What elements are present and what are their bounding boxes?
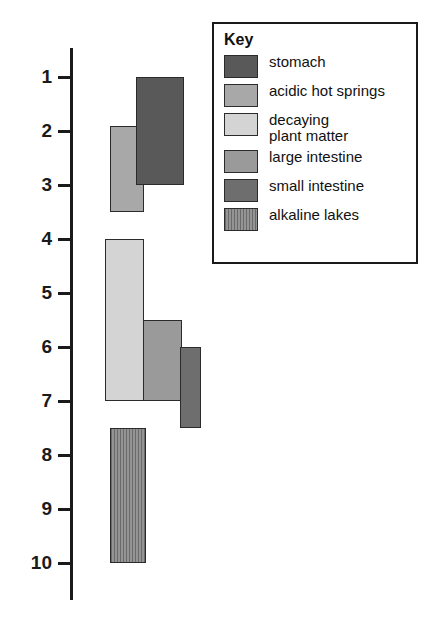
legend-swatch-icon [224,208,258,231]
legend-item: decaying plant matter [224,112,408,144]
y-axis-tick-label-text: 1 [8,67,52,86]
y-axis-tick-label: 6 [0,337,52,357]
y-axis-tick [58,400,72,403]
y-axis-tick [58,292,72,295]
legend-item: alkaline lakes [224,207,408,231]
legend-swatch-icon [224,150,258,173]
y-axis-tick-label-text: 7 [8,391,52,410]
y-axis-tick [58,508,72,511]
legend-items: stomachacidic hot springsdecaying plant … [224,54,408,231]
legend-item-label: large intestine [269,149,362,165]
y-axis-tick [58,454,72,457]
legend-item-label: alkaline lakes [269,207,359,223]
y-axis-tick-label-text: 3 [8,175,52,194]
y-axis-tick [58,238,72,241]
legend-swatch-icon [224,55,258,78]
legend-item-label: small intestine [269,178,364,194]
legend-item: stomach [224,54,408,78]
y-axis-tick-label: 9 [0,499,52,519]
legend-item-label: decaying plant matter [269,112,348,144]
y-axis-tick [58,346,72,349]
legend-item-label: acidic hot springs [269,83,385,99]
y-axis-tick-label-text: 5 [8,283,52,302]
legend-swatch-icon [224,179,258,202]
y-axis-tick [58,562,72,565]
legend-item: acidic hot springs [224,83,408,107]
y-axis-tick [58,130,72,133]
y-axis-tick-label: 7 [0,391,52,411]
legend-item-label: stomach [269,54,326,70]
legend-item: large intestine [224,149,408,173]
y-axis-tick-label: 2 [0,121,52,141]
legend-swatch-icon [224,113,258,136]
y-axis-tick-label: 5 [0,283,52,303]
bar-decaying-plant-matter [105,239,144,401]
legend-title: Key [224,31,408,49]
ph-range-chart: 12345678910 Key stomachacidic hot spring… [0,0,434,624]
bar-alkaline-lakes [110,428,146,563]
legend-item: small intestine [224,178,408,202]
bar-small-intestine [180,347,201,428]
y-axis-tick-label: 4 [0,229,52,249]
y-axis-tick-label-text: 4 [8,229,52,248]
y-axis-tick-label: 1 [0,67,52,87]
y-axis-tick-label-text: 9 [8,499,52,518]
bar-large-intestine [143,320,182,401]
y-axis-tick-label-text: 6 [8,337,52,356]
y-axis-tick-label-text: 10 [8,553,52,572]
bar-stomach [136,77,184,185]
y-axis-tick [58,184,72,187]
y-axis-tick [58,76,72,79]
y-axis-tick-label-text: 8 [8,445,52,464]
legend-swatch-icon [224,84,258,107]
y-axis-tick-label: 10 [0,553,52,573]
y-axis-tick-label-text: 2 [8,121,52,140]
chart-legend: Key stomachacidic hot springsdecaying pl… [212,22,418,264]
y-axis-tick-label: 8 [0,445,52,465]
y-axis-tick-label: 3 [0,175,52,195]
